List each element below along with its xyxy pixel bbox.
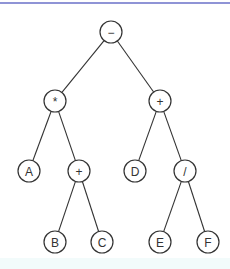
tree-edge	[117, 41, 153, 92]
svg-text:*: *	[53, 95, 58, 109]
svg-text:B: B	[51, 236, 59, 250]
tree-nodes: − * + A + D / B C E F	[18, 21, 219, 253]
node-divide: /	[174, 160, 196, 182]
node-b: B	[44, 231, 66, 253]
svg-text:A: A	[25, 165, 33, 179]
expression-tree: − * + A + D / B C E F	[0, 0, 230, 269]
svg-text:+: +	[156, 95, 163, 109]
node-c: C	[91, 231, 113, 253]
node-plus-right: +	[149, 90, 171, 112]
tree-edge	[164, 111, 182, 160]
svg-text:+: +	[75, 165, 82, 179]
node-root-minus: −	[100, 21, 122, 43]
node-plus-inner: +	[68, 160, 90, 182]
node-f: F	[197, 231, 219, 253]
tree-edge	[62, 41, 104, 93]
svg-text:D: D	[131, 165, 140, 179]
node-e: E	[149, 231, 171, 253]
svg-text:C: C	[98, 236, 107, 250]
svg-text:F: F	[204, 236, 211, 250]
tree-edge	[33, 111, 51, 160]
svg-text:E: E	[156, 236, 164, 250]
node-a: A	[18, 160, 40, 182]
tree-edge	[82, 181, 98, 231]
node-multiply: *	[44, 90, 66, 112]
tree-edges	[33, 41, 205, 232]
node-d: D	[124, 160, 146, 182]
tree-edge	[139, 111, 157, 160]
tree-edge	[188, 181, 204, 231]
svg-text:−: −	[107, 26, 114, 40]
tree-edge	[164, 181, 182, 231]
tree-edge	[59, 181, 76, 231]
tree-edge	[59, 111, 76, 160]
